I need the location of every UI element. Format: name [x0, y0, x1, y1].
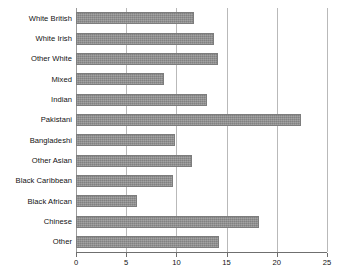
gridline-25	[327, 8, 328, 252]
x-tick-mark-10	[176, 253, 177, 257]
x-tick-mark-15	[227, 253, 228, 257]
category-label: Black African	[0, 197, 72, 206]
category-label: Other White	[0, 54, 72, 63]
bar	[76, 236, 219, 248]
x-tick-label: 20	[265, 258, 289, 267]
bar	[76, 33, 214, 45]
x-tick-label: 25	[315, 258, 339, 267]
category-label: Chinese	[0, 217, 72, 226]
y-axis-category-labels: White BritishWhite IrishOther WhiteMixed…	[0, 8, 72, 252]
x-tick-label: 5	[114, 258, 138, 267]
x-tick-mark-25	[327, 253, 328, 257]
category-label: Other	[0, 237, 72, 246]
category-label: Black Caribbean	[0, 176, 72, 185]
bar	[76, 195, 137, 207]
category-label: Pakistani	[0, 115, 72, 124]
x-tick-mark-5	[126, 253, 127, 257]
bar	[76, 155, 192, 167]
category-label: Other Asian	[0, 156, 72, 165]
bar	[76, 175, 173, 187]
category-label: Bangladeshi	[0, 136, 72, 145]
bar	[76, 53, 218, 65]
bar	[76, 94, 207, 106]
category-label: Indian	[0, 95, 72, 104]
x-tick-mark-0	[76, 253, 77, 257]
bar	[76, 216, 259, 228]
x-tick-label: 15	[215, 258, 239, 267]
bar	[76, 73, 164, 85]
x-axis-line	[76, 252, 327, 253]
category-label: White British	[0, 14, 72, 23]
bar-chart: White BritishWhite IrishOther WhiteMixed…	[0, 0, 340, 280]
bar	[76, 12, 194, 24]
category-label: White Irish	[0, 34, 72, 43]
x-tick-label: 10	[164, 258, 188, 267]
gridline-20	[277, 8, 278, 252]
bar	[76, 114, 301, 126]
bar	[76, 134, 175, 146]
x-tick-mark-20	[277, 253, 278, 257]
plot-area	[76, 8, 327, 252]
category-label: Mixed	[0, 75, 72, 84]
x-tick-label: 0	[64, 258, 88, 267]
